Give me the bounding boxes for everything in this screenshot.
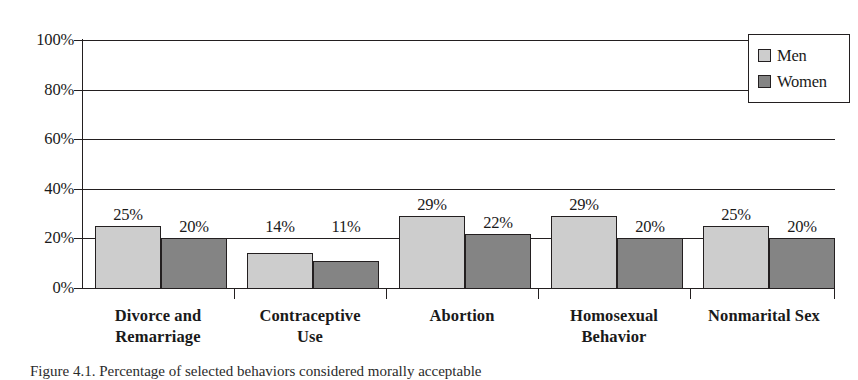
- y-tick-label-20: 20%: [8, 230, 74, 246]
- x-tick-mark-4: [690, 288, 691, 299]
- y-tick-label-80: 80%: [8, 82, 74, 98]
- gridline-40: [82, 189, 835, 190]
- legend-item-men: Men: [758, 42, 841, 68]
- y-tick-label-0: 0%: [8, 280, 74, 296]
- bar-women-homosexual-behavior: [617, 238, 683, 289]
- bar-value-women-contraceptive-use: 11%: [313, 218, 379, 235]
- legend-label-men: Men: [777, 47, 807, 64]
- x-tick-mark-3: [538, 288, 539, 299]
- bar-value-women-homosexual-behavior: 20%: [617, 218, 683, 235]
- bar-men-contraceptive-use: [247, 253, 313, 289]
- y-tick-label-60: 60%: [8, 131, 74, 147]
- gridline-100: [82, 40, 835, 41]
- category-label-abortion: Abortion: [386, 305, 538, 326]
- bar-value-men-contraceptive-use: 14%: [247, 218, 313, 235]
- legend: Men Women: [748, 34, 850, 103]
- category-label-divorce-and-remarriage: Divorce and Remarriage: [82, 305, 234, 347]
- category-label-contraceptive-use: Contraceptive Use: [234, 305, 386, 347]
- y-tick-label-40: 40%: [8, 181, 74, 197]
- category-label-homosexual-behavior: Homosexual Behavior: [538, 305, 690, 347]
- legend-swatch-men-icon: [758, 49, 771, 62]
- gridline-80: [82, 90, 835, 91]
- figure-caption: Figure 4.1. Percentage of selected behav…: [30, 362, 840, 380]
- bar-men-divorce-and-remarriage: [95, 226, 161, 289]
- y-tick-label-100: 100%: [8, 32, 74, 48]
- bar-value-women-nonmarital-sex: 20%: [769, 218, 835, 235]
- bar-men-abortion: [399, 216, 465, 289]
- bar-value-men-divorce-and-remarriage: 25%: [95, 206, 161, 223]
- plot-area: [82, 40, 835, 288]
- bar-value-men-homosexual-behavior: 29%: [551, 196, 617, 213]
- bar-women-divorce-and-remarriage: [161, 238, 227, 289]
- x-tick-mark-2: [386, 288, 387, 299]
- bar-men-homosexual-behavior: [551, 216, 617, 289]
- bar-women-nonmarital-sex: [769, 238, 835, 289]
- bar-value-women-abortion: 22%: [465, 214, 531, 231]
- bar-value-men-abortion: 29%: [399, 196, 465, 213]
- x-tick-mark-5: [834, 288, 835, 299]
- bar-men-nonmarital-sex: [703, 226, 769, 289]
- legend-item-women: Women: [758, 68, 841, 94]
- legend-swatch-women-icon: [758, 75, 771, 88]
- bar-value-women-divorce-and-remarriage: 20%: [161, 218, 227, 235]
- bar-value-men-nonmarital-sex: 25%: [703, 206, 769, 223]
- legend-label-women: Women: [777, 73, 827, 90]
- x-tick-mark-1: [234, 288, 235, 299]
- bar-women-abortion: [465, 234, 531, 289]
- category-label-nonmarital-sex: Nonmarital Sex: [688, 305, 840, 326]
- bar-women-contraceptive-use: [313, 261, 379, 289]
- gridline-60: [82, 139, 835, 140]
